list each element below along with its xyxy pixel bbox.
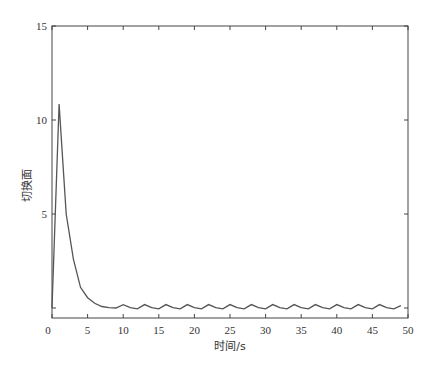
x-axis-label: 时间/s [214,340,246,353]
line-chart: 05101520253035404550 51015 时间/s 切换面 [0,0,434,367]
x-tick-label: 50 [403,324,415,336]
y-axis-label: 切换面 [20,169,34,202]
x-tick-label: 25 [225,324,237,336]
x-tick-labels: 05101520253035404550 [45,324,414,336]
x-tick-label: 35 [296,324,308,336]
x-tick-label: 15 [153,324,165,336]
x-tick-label: 0 [45,324,51,336]
x-tick-label: 5 [85,324,91,336]
axis-ticks [52,26,408,318]
x-tick-label: 20 [189,324,201,336]
x-tick-label: 10 [118,324,130,336]
plot-frame [52,26,408,318]
y-tick-label: 15 [36,20,48,32]
plot-area-border [52,26,408,318]
y-tick-label: 5 [42,208,48,220]
data-line [52,104,401,309]
y-tick-labels: 51015 [36,20,48,220]
x-tick-label: 45 [367,324,379,336]
y-tick-label: 10 [36,114,48,126]
x-tick-label: 30 [260,324,272,336]
x-tick-label: 40 [331,324,343,336]
